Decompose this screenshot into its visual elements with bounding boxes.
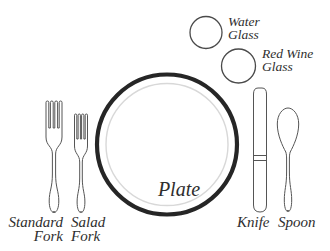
spoon-icon <box>277 108 298 212</box>
salad-fork-icon <box>75 114 88 213</box>
plate-label: Plate <box>158 179 200 199</box>
knife-label: Knife <box>237 216 270 230</box>
water-glass-label: Water Glass <box>228 16 260 41</box>
standard-fork-icon <box>46 101 62 213</box>
knife-icon <box>254 88 267 212</box>
water-glass-icon <box>190 17 222 49</box>
place-setting-diagram: Water Glass Red Wine Glass Plate Standar… <box>0 0 330 251</box>
spoon-label: Spoon <box>278 216 316 230</box>
red-wine-glass-icon <box>222 49 256 83</box>
salad-fork-label: Salad Fork <box>71 216 105 243</box>
red-wine-glass-label: Red Wine Glass <box>262 48 313 73</box>
standard-fork-label: Standard Fork <box>9 216 63 243</box>
